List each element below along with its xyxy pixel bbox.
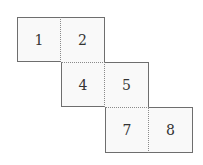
net-cell-2: 2 bbox=[61, 17, 105, 62]
cell-label: 8 bbox=[166, 122, 175, 138]
cell-label: 1 bbox=[35, 32, 44, 48]
cell-label: 4 bbox=[79, 77, 88, 93]
net-cell-8: 8 bbox=[149, 107, 193, 153]
net-cell-7: 7 bbox=[105, 107, 149, 153]
net-cell-4: 4 bbox=[61, 62, 105, 107]
cell-label: 7 bbox=[123, 122, 132, 138]
cell-label: 5 bbox=[122, 77, 131, 93]
net-cell-1: 1 bbox=[17, 17, 61, 62]
cell-label: 2 bbox=[78, 32, 87, 48]
net-cell-5: 5 bbox=[105, 62, 149, 107]
